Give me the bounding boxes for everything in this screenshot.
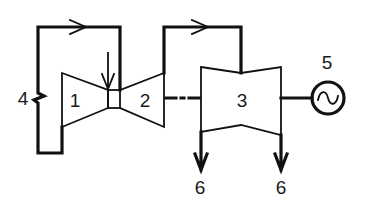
exhaust-pipe bbox=[164, 27, 241, 73]
label-outlet-6-right: 6 bbox=[276, 178, 287, 197]
diagram-canvas bbox=[0, 0, 366, 206]
combustor-box bbox=[108, 90, 120, 108]
label-compressor-1: 1 bbox=[70, 91, 81, 110]
outlet-arrow-right-icon bbox=[275, 135, 287, 170]
label-generator-5: 5 bbox=[322, 53, 333, 72]
label-4: 4 bbox=[18, 89, 29, 108]
label-turbine-3: 3 bbox=[237, 91, 248, 110]
label-outlet-6-left: 6 bbox=[195, 178, 206, 197]
sine-wave-icon bbox=[318, 92, 338, 104]
label-turbine-2: 2 bbox=[140, 91, 151, 110]
outlet-arrow-left-icon bbox=[195, 132, 207, 170]
fuel-inlet-arrow-icon bbox=[102, 53, 114, 89]
